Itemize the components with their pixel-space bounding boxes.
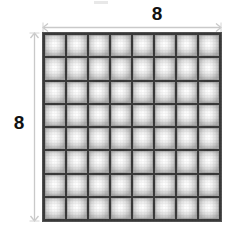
grid-cell [155, 35, 175, 56]
left-dimension-label: 8 [8, 113, 30, 132]
grid-cell [133, 58, 153, 79]
grid-cell [133, 35, 153, 56]
grid-cell [177, 82, 197, 103]
grid-cell [133, 128, 153, 149]
grid-cell [177, 58, 197, 79]
top-dimension-label: 8 [146, 4, 168, 23]
grid-cell [45, 175, 65, 196]
grid-cell [45, 128, 65, 149]
grid-cell [67, 198, 87, 219]
grid-cell [111, 175, 131, 196]
grid-cell [199, 128, 219, 149]
grid-cell [177, 105, 197, 126]
grid-cell [111, 105, 131, 126]
grid-cell [67, 151, 87, 172]
grid-cell [133, 105, 153, 126]
square-grid-diagram: 8 8 [0, 0, 231, 238]
grid-cell [133, 82, 153, 103]
grid-cell [67, 58, 87, 79]
grid-cell [67, 175, 87, 196]
grid-cell [89, 58, 109, 79]
grid-cell [45, 198, 65, 219]
grid-cell [89, 175, 109, 196]
grid-cell [199, 198, 219, 219]
grid-cell [67, 82, 87, 103]
grid-cell [155, 58, 175, 79]
grid-cell [177, 198, 197, 219]
grid-cell [155, 198, 175, 219]
grid-cell [177, 151, 197, 172]
grid-cell [45, 151, 65, 172]
grid-cell [111, 198, 131, 219]
grid-cell [199, 175, 219, 196]
grid-cell [45, 82, 65, 103]
grid-cell [89, 82, 109, 103]
grid-cell [199, 58, 219, 79]
grid-cell [111, 151, 131, 172]
grid-cell [45, 35, 65, 56]
grid-cell [67, 105, 87, 126]
grid-cell [45, 58, 65, 79]
grid-cell [155, 128, 175, 149]
grid-cell [177, 35, 197, 56]
scan-artifact [94, 1, 108, 4]
grid-cell [111, 128, 131, 149]
grid-cell [111, 58, 131, 79]
grid-cell [89, 151, 109, 172]
grid-cell [155, 105, 175, 126]
grid-cell [89, 35, 109, 56]
grid-cell [199, 105, 219, 126]
grid-cell [155, 82, 175, 103]
double-arrow-vertical-icon [29, 32, 40, 222]
grid-cell [89, 128, 109, 149]
grid-cell [67, 35, 87, 56]
grid-cell [111, 35, 131, 56]
grid-cell [111, 82, 131, 103]
grid-of-squares [42, 32, 222, 222]
grid-cell [199, 82, 219, 103]
grid-cell [177, 175, 197, 196]
grid-cell [155, 175, 175, 196]
grid-cell [89, 105, 109, 126]
grid-cell [199, 35, 219, 56]
grid-cell [155, 151, 175, 172]
grid-cell [133, 175, 153, 196]
grid-cell [199, 151, 219, 172]
grid-cell [45, 105, 65, 126]
grid-cell [177, 128, 197, 149]
grid-cell [133, 198, 153, 219]
grid-cell [133, 151, 153, 172]
grid-cell [67, 128, 87, 149]
grid-cell [89, 198, 109, 219]
